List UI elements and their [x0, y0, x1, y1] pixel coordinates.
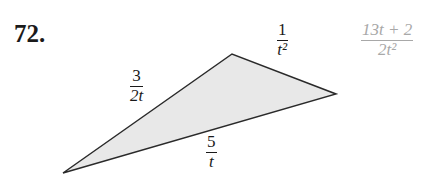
side-bottom-numerator: 5 — [206, 134, 217, 152]
side-label-top-right: 1 t² — [277, 22, 288, 58]
side-label-bottom: 5 t — [206, 134, 217, 170]
side-top-right-denominator: t² — [277, 40, 287, 59]
side-top-right-numerator: 1 — [277, 22, 288, 40]
side-left-numerator: 3 — [131, 68, 142, 86]
answer-denominator: 2t² — [378, 40, 396, 59]
side-bottom-denominator: t — [209, 152, 214, 171]
side-label-left: 3 2t — [130, 68, 143, 104]
side-left-denominator: 2t — [130, 86, 143, 105]
answer-fraction: 13t + 2 2t² — [361, 22, 413, 58]
triangle-shape — [63, 54, 336, 173]
answer-numerator: 13t + 2 — [362, 20, 412, 39]
textbook-exercise: 72. 3 2t 1 t² 5 t 13t + 2 2t² — [0, 0, 439, 179]
